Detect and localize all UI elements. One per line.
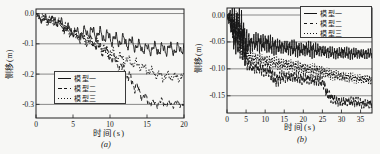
- x-tick-label: 10: [261, 115, 269, 124]
- legend-item-b-model1: 模型一: [304, 8, 368, 18]
- y-tick-label: -0.2: [22, 70, 34, 79]
- legend-label: 模型三: [74, 93, 97, 103]
- x-tick-label: 30: [338, 115, 346, 124]
- x-axis-label-b: 时间(s): [284, 120, 316, 132]
- dashed-line-icon: [304, 23, 317, 24]
- chart-panel-b: 051015202530350.00-0.05-0.10-0.15 侧移(m) …: [190, 0, 380, 154]
- x-axis-label-a: 时间(s): [93, 126, 125, 138]
- caption-a: (a): [101, 139, 111, 149]
- legend-label: 模型一: [74, 73, 97, 83]
- x-tick-label: 20: [180, 120, 188, 129]
- x-tick-label: 15: [143, 120, 151, 129]
- legend-label: 模型二: [74, 83, 97, 93]
- figure-dual-line-chart: 051015200.0-0.1-0.2-0.3 侧移(m) 时间(s) (a) …: [0, 0, 380, 154]
- x-tick-label: 25: [319, 115, 327, 124]
- y-tick-label: -0.3: [22, 100, 34, 109]
- legend-item-b-model3: 模型三: [304, 28, 368, 38]
- y-tick-label: 0.0: [25, 9, 35, 18]
- legend-a: 模型一 模型二 模型三: [54, 71, 126, 104]
- x-tick-label: 0: [225, 115, 229, 124]
- chart-panel-a: 051015200.0-0.1-0.2-0.3 侧移(m) 时间(s) (a) …: [0, 0, 190, 154]
- y-tick-label: -0.1: [22, 39, 34, 48]
- x-tick-label: 5: [71, 120, 75, 129]
- legend-item-a-model2: 模型二: [58, 83, 122, 93]
- legend-label: 模型二: [320, 18, 343, 28]
- x-tick-label: 35: [357, 115, 365, 124]
- legend-item-b-model2: 模型二: [304, 18, 368, 28]
- legend-item-a-model3: 模型三: [58, 93, 122, 103]
- x-tick-label: 0: [34, 120, 38, 129]
- dotted-line-icon: [58, 98, 71, 99]
- legend-label: 模型三: [320, 28, 343, 38]
- dotted-line-icon: [304, 33, 317, 34]
- legend-item-a-model1: 模型一: [58, 73, 122, 83]
- caption-b: (b): [297, 134, 307, 144]
- solid-line-icon: [58, 78, 71, 79]
- legend-label: 模型一: [320, 8, 343, 18]
- y-tick-label: -0.05: [209, 37, 225, 46]
- solid-line-icon: [304, 13, 317, 14]
- y-axis-label-b: 侧移(m): [192, 43, 203, 73]
- y-tick-label: 0.00: [212, 11, 225, 20]
- x-tick-label: 5: [244, 115, 248, 124]
- legend-b: 模型一 模型二 模型三: [300, 6, 372, 38]
- y-tick-label: -0.10: [209, 64, 225, 73]
- dashed-line-icon: [58, 88, 71, 89]
- y-axis-label-a: 侧移(m): [3, 49, 14, 79]
- y-tick-label: -0.15: [209, 91, 225, 100]
- series-line-solid: [36, 14, 184, 57]
